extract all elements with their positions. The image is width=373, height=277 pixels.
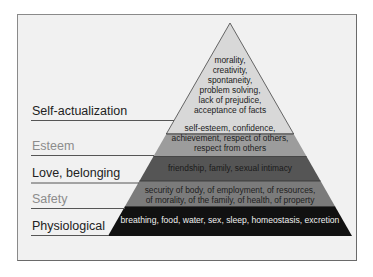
- description-love-belonging: friendship, family, sexual intimacy: [150, 163, 310, 173]
- description-physiological: breathing, food, water, sex, sleep, home…: [115, 215, 345, 225]
- description-line: of morality, of the family, of health, o…: [130, 195, 330, 205]
- description-line: self-esteem, confidence,: [160, 123, 300, 133]
- label-esteem: Esteem: [32, 139, 74, 153]
- label-love-belonging: Love, belonging: [32, 166, 120, 180]
- description-line: morality,: [180, 55, 280, 65]
- description-line: acceptance of facts: [180, 105, 280, 115]
- description-line: respect from others: [160, 143, 300, 153]
- description-line: problem solving,: [180, 85, 280, 95]
- description-line: friendship, family, sexual intimacy: [150, 163, 310, 173]
- description-safety: security of body, of employment, of reso…: [130, 185, 330, 205]
- description-line: lack of prejudice,: [180, 95, 280, 105]
- description-esteem: self-esteem, confidence, achievement, re…: [160, 123, 300, 153]
- description-line: security of body, of employment, of reso…: [130, 185, 330, 195]
- label-physiological: Physiological: [32, 219, 105, 233]
- label-safety: Safety: [32, 192, 67, 206]
- description-line: spontaneity,: [180, 75, 280, 85]
- description-line: creativity,: [180, 65, 280, 75]
- label-self-actualization: Self-actualization: [32, 104, 127, 118]
- description-line: breathing, food, water, sex, sleep, home…: [115, 215, 345, 225]
- description-self-actualization: morality, creativity, spontaneity, probl…: [180, 55, 280, 115]
- description-line: achievement, respect of others,: [160, 133, 300, 143]
